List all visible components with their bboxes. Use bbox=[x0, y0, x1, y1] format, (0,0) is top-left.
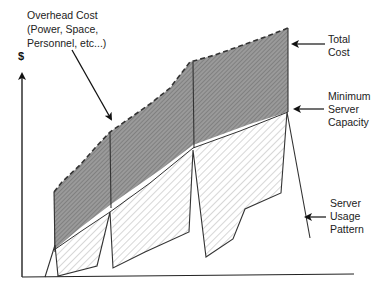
overhead-cost-annotation: Overhead Cost (Power, Space, Personnel, … bbox=[27, 9, 111, 119]
overhead-label-line1: Overhead Cost bbox=[27, 9, 98, 21]
overhead-arrow-icon bbox=[72, 50, 111, 119]
min-capacity-annotation: Minimum Server Capacity bbox=[295, 90, 371, 128]
y-axis-label: $ bbox=[18, 50, 24, 62]
cost-diagram: $ Overhead Cost (Power, Space, Personnel… bbox=[0, 0, 386, 289]
total-cost-label-line2: Cost bbox=[328, 46, 350, 58]
usage-pattern-annotation: Server Usage Pattern bbox=[306, 197, 364, 235]
overhead-label-line2: (Power, Space, bbox=[27, 23, 98, 35]
usage-label-line2: Usage bbox=[330, 210, 361, 222]
min-capacity-label-line2: Server bbox=[328, 103, 359, 115]
overhead-label-line3: Personnel, etc...) bbox=[27, 37, 106, 49]
usage-label-line1: Server bbox=[330, 197, 361, 209]
x-axis bbox=[22, 274, 354, 277]
total-cost-annotation: Total Cost bbox=[293, 33, 350, 58]
min-capacity-label-line3: Capacity bbox=[328, 116, 370, 128]
total-cost-label-line1: Total bbox=[328, 33, 350, 45]
usage-label-line3: Pattern bbox=[330, 223, 364, 235]
min-capacity-label-line1: Minimum bbox=[328, 90, 371, 102]
